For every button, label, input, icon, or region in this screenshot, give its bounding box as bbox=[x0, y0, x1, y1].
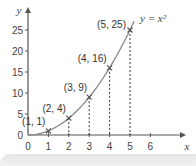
bottom-shadow bbox=[0, 154, 196, 166]
point-label: (4, 16) bbox=[78, 53, 107, 64]
y-tick-label: 20 bbox=[12, 46, 24, 57]
x-tick-label: 2 bbox=[66, 141, 72, 152]
chart: xy01234560510152025(1, 1)(2, 4)(3, 9)(4,… bbox=[0, 0, 196, 166]
x-axis-label: x bbox=[184, 140, 190, 152]
x-tick-label: 1 bbox=[46, 141, 52, 152]
y-axis-label: y bbox=[16, 4, 22, 16]
point-label: (1, 1) bbox=[22, 116, 45, 127]
y-tick-label: 0 bbox=[17, 130, 23, 141]
x-tick-label: 4 bbox=[107, 141, 113, 152]
point-label: (5, 25) bbox=[97, 19, 126, 30]
x-axis-arrow-icon bbox=[180, 132, 186, 138]
x-tick-label: 3 bbox=[86, 141, 92, 152]
x-tick-label: 6 bbox=[148, 141, 154, 152]
y-tick-label: 25 bbox=[12, 25, 24, 36]
curve-label: y = x² bbox=[139, 12, 167, 24]
x-tick-label: 0 bbox=[25, 141, 31, 152]
y-tick-label: 15 bbox=[12, 67, 24, 78]
point-label: (3, 9) bbox=[64, 82, 87, 93]
y-axis-arrow-icon bbox=[25, 7, 31, 13]
point-label: (2, 4) bbox=[42, 103, 65, 114]
x-tick-label: 5 bbox=[127, 141, 133, 152]
y-tick-label: 10 bbox=[12, 88, 24, 99]
